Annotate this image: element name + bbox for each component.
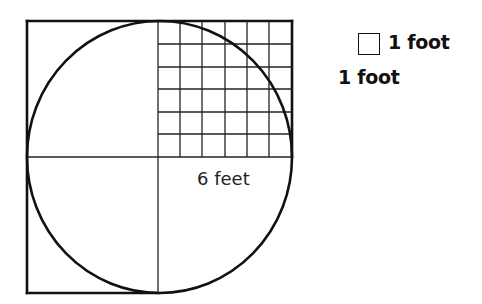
unit-square-icon bbox=[358, 33, 380, 55]
legend-unit-side-label: 1 foot bbox=[338, 66, 400, 88]
dimension-label: 6 feet bbox=[197, 168, 250, 189]
legend-unit-box-label: 1 foot bbox=[388, 31, 450, 53]
unit-grid bbox=[158, 21, 292, 157]
quadrant-dividers bbox=[27, 21, 292, 293]
